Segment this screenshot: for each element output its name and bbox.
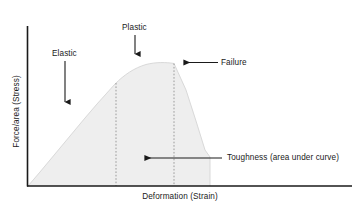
curve-area-fill	[28, 63, 210, 186]
elastic-label: Elastic	[52, 49, 77, 58]
y-axis-title: Force/area (Stress)	[12, 57, 21, 167]
x-axis-title: Deformation (Strain)	[104, 192, 256, 201]
stress-strain-diagram: Force/area (Stress) Deformation (Strain)…	[0, 0, 362, 216]
toughness-label: Toughness (area under curve)	[227, 153, 339, 162]
failure-label: Failure	[221, 58, 247, 67]
plot-canvas	[0, 0, 362, 216]
plastic-label: Plastic	[122, 23, 147, 32]
